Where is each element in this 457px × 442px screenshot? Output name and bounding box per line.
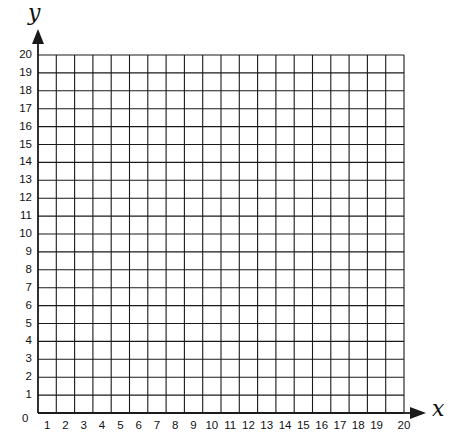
y-tick-label: 18 [8, 85, 32, 97]
y-tick-label: 4 [8, 335, 32, 347]
y-tick-label: 2 [8, 371, 32, 383]
y-tick-label: 14 [8, 156, 32, 168]
y-tick-label: 6 [8, 300, 32, 312]
x-tick-label: 9 [184, 420, 204, 432]
y-tick-label: 5 [8, 318, 32, 330]
x-tick-label: 1 [37, 420, 57, 432]
y-tick-label: 10 [8, 228, 32, 240]
y-tick-label: 8 [8, 264, 32, 276]
y-tick-label: 3 [8, 353, 32, 365]
y-tick-label: 9 [8, 246, 32, 258]
x-tick-label: 4 [92, 420, 112, 432]
x-tick-label: 5 [110, 420, 130, 432]
y-tick-label: 12 [8, 192, 32, 204]
x-tick-label: 11 [220, 420, 240, 432]
y-axis-arrow-icon [32, 29, 44, 44]
x-tick-label: 7 [147, 420, 167, 432]
y-tick-label: 17 [8, 103, 32, 115]
y-tick-label: 19 [8, 67, 32, 79]
x-tick-label: 13 [257, 420, 277, 432]
x-tick-label: 15 [293, 420, 313, 432]
origin-label: 0 [22, 413, 28, 425]
x-tick-label: 6 [129, 420, 149, 432]
x-tick-label: 3 [74, 420, 94, 432]
y-tick-label: 16 [8, 121, 32, 133]
y-tick-label: 11 [8, 210, 32, 222]
y-tick-label: 7 [8, 282, 32, 294]
x-tick-label: 19 [367, 420, 387, 432]
x-axis-label: x [432, 398, 444, 420]
y-tick-label: 1 [8, 389, 32, 401]
x-tick-label: 8 [165, 420, 185, 432]
x-axis-arrow-icon [410, 407, 426, 419]
y-axis-label: y [28, 2, 40, 24]
x-tick-label: 16 [312, 420, 332, 432]
x-tick-label: 14 [275, 420, 295, 432]
y-tick-label: 20 [8, 49, 32, 61]
coordinate-grid-figure: 1234567891011121314151617181920123456789… [0, 0, 457, 442]
grid-lines [0, 0, 457, 442]
x-tick-label: 18 [348, 420, 368, 432]
x-tick-label: 2 [55, 420, 75, 432]
x-tick-label: 17 [330, 420, 350, 432]
y-tick-label: 15 [8, 139, 32, 151]
y-tick-label: 13 [8, 174, 32, 186]
x-tick-label: 20 [394, 420, 414, 432]
x-tick-label: 12 [238, 420, 258, 432]
x-tick-label: 10 [202, 420, 222, 432]
